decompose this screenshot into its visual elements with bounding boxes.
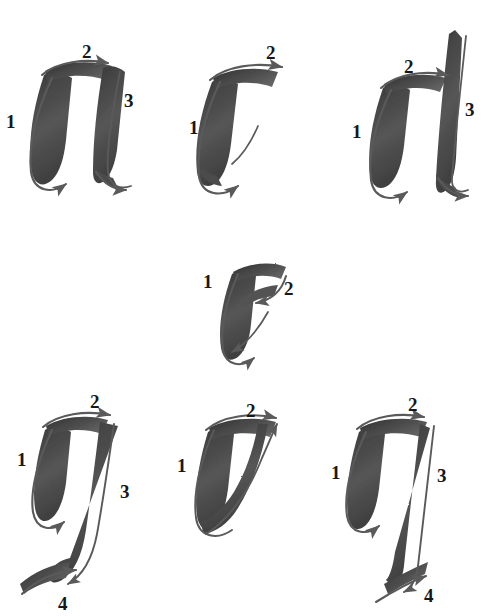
stroke-number-d-2: 2 [404,57,414,76]
stroke-number-o-2: 2 [246,401,256,420]
letter-g-glyph [20,417,118,594]
stroke-number-c-1: 1 [189,118,199,137]
stroke-number-d-1: 1 [352,122,362,141]
letter-c-glyph [196,69,278,186]
stroke-order-chart: 1 2 3 1 2 1 2 3 1 2 1 2 3 4 1 2 1 2 3 4 [0,0,502,616]
stroke-number-q-2: 2 [408,395,418,414]
stroke-number-c-2: 2 [266,43,276,62]
stroke-number-e-2: 2 [284,279,294,298]
stroke-number-q-1: 1 [331,463,341,482]
stroke-number-d-3: 3 [465,100,475,119]
stroke-number-a-3: 3 [124,91,134,110]
letter-e-glyph [220,264,286,360]
stroke-number-a-2: 2 [82,42,92,61]
stroke-number-g-4: 4 [58,594,68,613]
letter-o-glyph [196,419,276,534]
stroke-number-q-4: 4 [424,586,434,605]
stroke-number-a-1: 1 [6,112,16,131]
stroke-number-g-3: 3 [120,482,130,501]
stroke-number-g-2: 2 [90,392,100,411]
letter-d-glyph [369,30,462,198]
stroke-number-o-1: 1 [177,456,187,475]
stroke-number-e-1: 1 [203,272,213,291]
stroke-number-q-3: 3 [437,466,447,485]
stroke-number-g-1: 1 [17,450,27,469]
chart-canvas [0,0,502,616]
